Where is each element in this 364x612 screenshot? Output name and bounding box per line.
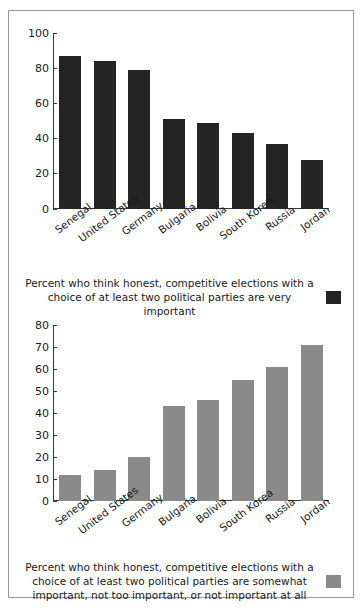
bar xyxy=(301,345,323,501)
y-tick-label: 50 xyxy=(35,386,53,397)
x-axis-labels-bottom: SenegalUnited StatesGermanyBulgariaBoliv… xyxy=(53,501,329,561)
x-label-slot: Russia xyxy=(260,209,294,269)
bar xyxy=(266,367,288,501)
plot-area-bottom: 01020304050607080 SenegalUnited StatesGe… xyxy=(53,325,329,501)
y-tick-label: 80 xyxy=(35,63,53,74)
x-axis-label: Jordan xyxy=(298,204,331,232)
bar-slot xyxy=(53,325,87,501)
y-tick-label: 60 xyxy=(35,98,53,109)
plot-area-top: 020406080100 SenegalUnited StatesGermany… xyxy=(53,33,329,209)
y-tick-label: 20 xyxy=(35,452,53,463)
y-tick-label: 20 xyxy=(35,168,53,179)
y-tick-label: 30 xyxy=(35,430,53,441)
legend-swatch-gray-icon xyxy=(326,575,341,588)
bar xyxy=(94,470,116,501)
x-axis-label: Russia xyxy=(264,204,297,233)
x-label-slot: South Korea xyxy=(226,209,260,269)
bar xyxy=(94,61,116,209)
x-axis-label: Jordan xyxy=(298,496,331,524)
x-label-slot: Russia xyxy=(260,501,294,561)
bar-slot xyxy=(122,33,156,209)
bar-slot xyxy=(260,325,294,501)
y-tick-label: 80 xyxy=(35,320,53,331)
x-label-slot: United States xyxy=(88,209,122,269)
bar-slot xyxy=(191,33,225,209)
y-tick-label: 40 xyxy=(35,133,53,144)
y-tick-label: 100 xyxy=(28,28,53,39)
x-label-slot: United States xyxy=(88,501,122,561)
x-label-slot: Jordan xyxy=(295,209,329,269)
bar xyxy=(197,123,219,209)
chart-panel-very-important: 020406080100 SenegalUnited StatesGermany… xyxy=(9,11,353,311)
x-label-slot: Bolivia xyxy=(191,209,225,269)
x-label-slot: Germany xyxy=(122,501,156,561)
bar xyxy=(128,70,150,209)
bar-slot xyxy=(226,33,260,209)
legend-swatch-dark-icon xyxy=(326,291,341,304)
y-tick-label: 0 xyxy=(42,496,53,507)
bar xyxy=(197,400,219,501)
x-label-slot: Jordan xyxy=(295,501,329,561)
x-label-slot: South Korea xyxy=(226,501,260,561)
x-label-slot: Bulgaria xyxy=(157,501,191,561)
bar-slot xyxy=(122,325,156,501)
y-tick-label: 40 xyxy=(35,408,53,419)
chart-panel-somewhat-important: 01020304050607080 SenegalUnited StatesGe… xyxy=(9,311,353,597)
bar-slot xyxy=(295,325,329,501)
bar xyxy=(59,56,81,209)
x-label-slot: Bulgaria xyxy=(157,209,191,269)
bar-slot xyxy=(226,325,260,501)
bar-slot xyxy=(88,33,122,209)
y-tick-label: 0 xyxy=(42,204,53,215)
bar-slot xyxy=(295,33,329,209)
figure-frame: 020406080100 SenegalUnited StatesGermany… xyxy=(8,10,354,598)
x-label-slot: Germany xyxy=(122,209,156,269)
bar-slot xyxy=(191,325,225,501)
bar-slot xyxy=(53,33,87,209)
x-axis-label: Russia xyxy=(264,496,297,525)
y-tick-label: 60 xyxy=(35,364,53,375)
bar xyxy=(232,380,254,501)
caption-text-bottom: Percent who think honest, competitive el… xyxy=(23,561,316,603)
bar-group-bottom xyxy=(53,325,329,501)
y-tick-label: 70 xyxy=(35,342,53,353)
caption-bottom: Percent who think honest, competitive el… xyxy=(23,561,341,603)
x-axis-labels-top: SenegalUnited StatesGermanyBulgariaBoliv… xyxy=(53,209,329,269)
bar xyxy=(232,133,254,209)
bar-slot xyxy=(260,33,294,209)
bar-slot xyxy=(157,325,191,501)
bar-slot xyxy=(157,33,191,209)
x-label-slot: Bolivia xyxy=(191,501,225,561)
bar xyxy=(163,119,185,209)
bar-group-top xyxy=(53,33,329,209)
bar-slot xyxy=(88,325,122,501)
bar xyxy=(163,406,185,501)
y-tick-label: 10 xyxy=(35,474,53,485)
bar xyxy=(301,160,323,209)
